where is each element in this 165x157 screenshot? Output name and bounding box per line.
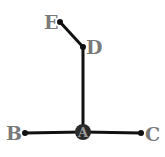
edge-a-c [83,132,141,133]
label-d: D [86,36,102,58]
node-b [22,130,28,136]
label-b: B [6,122,22,144]
label-a: A [77,125,89,140]
node-c [138,130,144,136]
edge-d-e [60,22,83,47]
label-c: C [145,123,160,145]
label-e: E [44,11,58,33]
tree-diagram: A B C D E [0,0,165,157]
edge-a-b [25,132,83,133]
